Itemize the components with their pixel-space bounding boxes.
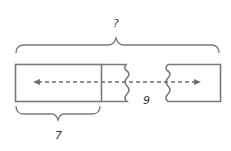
known-part-box [16, 65, 102, 102]
remaining-label: 9 [143, 94, 150, 107]
known-part-brace [16, 106, 100, 120]
middle-segment [102, 65, 130, 102]
arrow-right-icon [194, 79, 201, 85]
arrow-left-icon [33, 79, 40, 85]
total-label: ? [113, 17, 119, 30]
tape-diagram: ? 9 7 [0, 0, 231, 151]
right-segment [166, 65, 221, 102]
known-part-label: 7 [55, 129, 62, 142]
total-brace [16, 38, 219, 53]
